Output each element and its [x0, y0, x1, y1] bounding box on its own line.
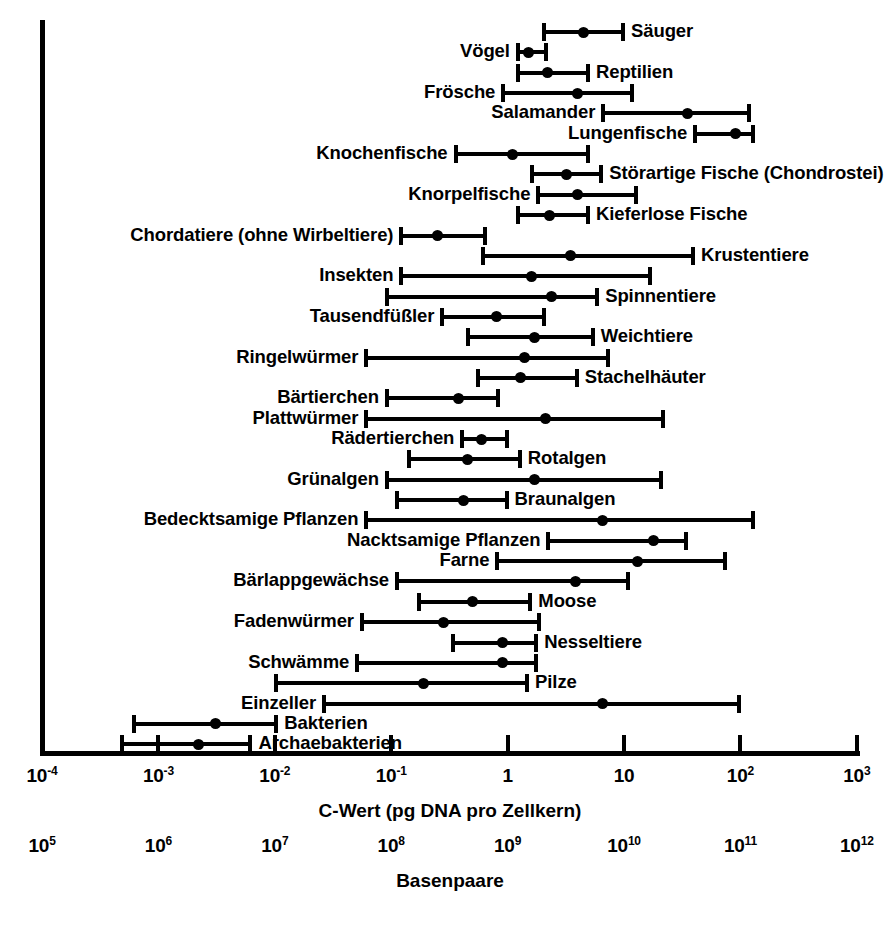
- chart-row[interactable]: Plattwürmer: [0, 409, 887, 429]
- range-cap-max: [483, 227, 487, 245]
- range-cap-max: [684, 532, 688, 550]
- typical-value-marker: [546, 291, 557, 302]
- chart-row[interactable]: Knochenfische: [0, 144, 887, 164]
- chart-row[interactable]: Bärlappgewächse: [0, 571, 887, 591]
- chart-row[interactable]: Salamander: [0, 103, 887, 123]
- chart-row[interactable]: Stachelhäuter: [0, 368, 887, 388]
- range-line: [133, 722, 278, 726]
- range-cap-min: [364, 349, 368, 367]
- range-cap-max: [751, 125, 755, 143]
- x-tick-label: 103: [843, 765, 870, 787]
- range-line: [356, 661, 537, 665]
- chart-row[interactable]: Braunalgen: [0, 490, 887, 510]
- range-cap-max: [248, 735, 252, 753]
- chart-row[interactable]: Einzeller: [0, 694, 887, 714]
- chart-row[interactable]: Tausendfüßler: [0, 307, 887, 327]
- range-cap-min: [451, 634, 455, 652]
- chart-row[interactable]: Nesseltiere: [0, 633, 887, 653]
- chart-row[interactable]: Spinnentiere: [0, 287, 887, 307]
- row-label: Vögel: [460, 40, 510, 62]
- x-tick-label-secondary: 1012: [840, 835, 874, 857]
- typical-value-marker: [570, 576, 581, 587]
- range-cap-max: [518, 450, 522, 468]
- row-label: Spinnentiere: [605, 285, 716, 307]
- range-cap-max: [537, 613, 541, 631]
- range-cap-min: [385, 288, 389, 306]
- range-line: [602, 111, 749, 115]
- chart-row[interactable]: Bärtierchen: [0, 388, 887, 408]
- row-label: Stachelhäuter: [585, 366, 706, 388]
- chart-row[interactable]: Bedecktsamige Pflanzen: [0, 510, 887, 530]
- range-cap-min: [355, 654, 359, 672]
- chart-row[interactable]: Frösche: [0, 83, 887, 103]
- typical-value-marker: [529, 474, 540, 485]
- chart-row[interactable]: Bakterien: [0, 714, 887, 734]
- chart-row[interactable]: Chordatiere (ohne Wirbeltiere): [0, 226, 887, 246]
- chart-row[interactable]: Pilze: [0, 673, 887, 693]
- typical-value-marker: [491, 311, 502, 322]
- range-cap-max: [505, 491, 509, 509]
- x-tick-label: 1: [502, 765, 512, 787]
- chart-row[interactable]: Weichtiere: [0, 327, 887, 347]
- chart-row[interactable]: Nacktsamige Pflanzen: [0, 531, 887, 551]
- x-tick-label-secondary: 108: [378, 835, 405, 857]
- range-cap-min: [516, 206, 520, 224]
- typical-value-marker: [453, 393, 464, 404]
- row-label: Säuger: [631, 20, 693, 42]
- chart-row[interactable]: Vögel: [0, 42, 887, 62]
- chart-row[interactable]: Rädertierchen: [0, 429, 887, 449]
- chart-row[interactable]: Archaebakterien: [0, 734, 887, 754]
- range-cap-max: [751, 511, 755, 529]
- row-label: Moose: [538, 590, 596, 612]
- range-cap-min: [364, 511, 368, 529]
- range-cap-min: [385, 471, 389, 489]
- chart-row[interactable]: Rotalgen: [0, 449, 887, 469]
- range-line: [396, 498, 508, 502]
- x-tick-label: 10-1: [376, 765, 407, 787]
- typical-value-marker: [458, 495, 469, 506]
- typical-value-marker: [438, 617, 449, 628]
- typical-value-marker: [523, 47, 534, 58]
- typical-value-marker: [210, 718, 221, 729]
- chart-row[interactable]: Schwämme: [0, 653, 887, 673]
- typical-value-marker: [597, 698, 608, 709]
- range-cap-min: [399, 267, 403, 285]
- row-label: Nesseltiere: [544, 631, 642, 653]
- chart-row[interactable]: Farne: [0, 551, 887, 571]
- range-cap-max: [606, 349, 610, 367]
- chart-row[interactable]: Lungenfische: [0, 124, 887, 144]
- typical-value-marker: [529, 332, 540, 343]
- typical-value-marker: [572, 189, 583, 200]
- chart-row[interactable]: Insekten: [0, 266, 887, 286]
- range-cap-max: [661, 410, 665, 428]
- row-label: Rädertierchen: [331, 427, 454, 449]
- range-cap-min: [495, 552, 499, 570]
- range-cap-max: [626, 572, 630, 590]
- chart-row[interactable]: Störartige Fische (Chondrostei): [0, 164, 887, 184]
- x-tick-label: 10: [614, 765, 635, 787]
- chart-row[interactable]: Reptilien: [0, 63, 887, 83]
- range-line: [365, 356, 609, 360]
- range-line: [396, 579, 629, 583]
- chart-row[interactable]: Säuger: [0, 22, 887, 42]
- chart-row[interactable]: Krustentiere: [0, 246, 887, 266]
- chart-row[interactable]: Grünalgen: [0, 470, 887, 490]
- x-axis-caption-primary: C-Wert (pg DNA pro Zellkern): [319, 800, 582, 822]
- row-label: Rotalgen: [528, 447, 606, 469]
- range-cap-min: [132, 715, 136, 733]
- chart-row[interactable]: Ringelwürmer: [0, 348, 887, 368]
- range-cap-max: [534, 654, 538, 672]
- chart-row[interactable]: Moose: [0, 592, 887, 612]
- typical-value-marker: [632, 556, 643, 567]
- typical-value-marker: [561, 169, 572, 180]
- chart-row[interactable]: Kieferlose Fische: [0, 205, 887, 225]
- range-cap-max: [621, 23, 625, 41]
- range-cap-min: [542, 23, 546, 41]
- x-tick-label: 10-3: [143, 765, 174, 787]
- typical-value-marker: [418, 678, 429, 689]
- chart-row[interactable]: Fadenwürmer: [0, 612, 887, 632]
- chart-row[interactable]: Knorpelfische: [0, 185, 887, 205]
- x-tick-label: 10-2: [259, 765, 290, 787]
- row-label: Lungenfische: [568, 122, 687, 144]
- range-line: [365, 417, 663, 421]
